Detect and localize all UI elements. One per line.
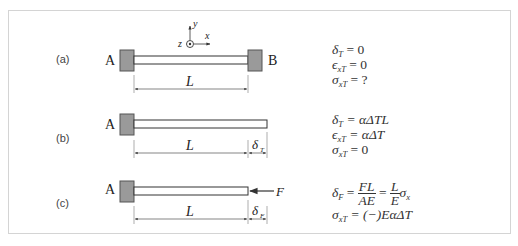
support-b-label: B: [268, 53, 277, 68]
support-a-label: A: [105, 117, 116, 132]
equation-line: δF = FLAE = LEσx: [332, 180, 412, 207]
case-a-figure: (a) A B y x z L: [56, 18, 277, 93]
right-wall: [248, 50, 262, 71]
y-axis-label: y: [192, 18, 198, 29]
length-label: L: [185, 138, 194, 153]
expanded-bar: [134, 120, 267, 128]
bar: [134, 56, 248, 64]
z-axis-label: z: [177, 38, 182, 49]
case-c-label: (c): [56, 197, 69, 209]
x-axis-label: x: [204, 30, 210, 41]
force-label: F: [275, 184, 285, 199]
coordinate-axes-icon: y x z: [177, 18, 210, 49]
equation-line: σxT = (−)EαΔT: [332, 207, 412, 222]
length-label: L: [185, 74, 194, 89]
support-a-label: A: [105, 182, 116, 197]
thermal-stress-diagram: (a) A B y x z L (b) A L δ: [0, 0, 518, 246]
equation-line: σxT = ?: [332, 72, 368, 87]
equation-line: δT = αΔTL: [332, 112, 389, 127]
fraction-l-e: LE: [390, 180, 400, 207]
left-wall: [120, 114, 134, 135]
case-b-label: (b): [56, 132, 69, 144]
support-a-label: A: [105, 53, 116, 68]
case-b-figure: (b) A L δ T: [56, 114, 267, 158]
length-label: L: [185, 204, 194, 219]
case-a-label: (a): [56, 53, 69, 65]
fraction-fl-ae: FLAE: [358, 180, 376, 207]
deflection-label: δ: [252, 203, 259, 218]
case-c-figure: (c) A F L δ F: [56, 181, 285, 224]
case-b-equations: δT = αΔTL ϵxT = αΔT σxT = 0: [332, 112, 389, 157]
case-c-equations: δF = FLAE = LEσx σxT = (−)EαΔT: [332, 180, 412, 222]
left-wall: [120, 50, 134, 71]
left-wall: [120, 181, 134, 202]
deflection-sub: F: [259, 212, 265, 220]
equation-line: ϵxT = 0: [332, 57, 368, 72]
extension-label: δ: [252, 137, 259, 152]
case-a-equations: δT = 0 ϵxT = 0 σxT = ?: [332, 42, 368, 87]
equation-line: σxT = 0: [332, 142, 389, 157]
compressed-bar: [134, 187, 248, 195]
equation-line: ϵxT = αΔT: [332, 127, 389, 142]
equation-line: δT = 0: [332, 42, 368, 57]
